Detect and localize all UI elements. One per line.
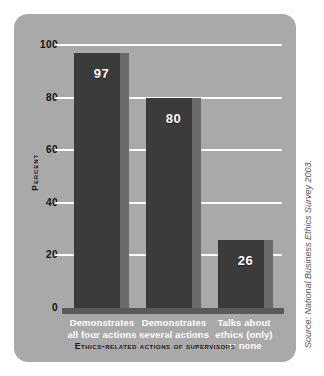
category-label-demonstrates-all-four-actions: Demonstrates all four actions — [62, 317, 142, 340]
y-axis-tick-mark-80 — [55, 97, 64, 99]
bar-value-label: 80 — [146, 111, 201, 126]
category-label-line: Demonstrates — [134, 317, 214, 329]
y-axis-tick-mark-20 — [55, 254, 64, 256]
bar-value-label: 26 — [218, 253, 273, 268]
bar-side-face — [264, 240, 273, 308]
category-label-line: Talks about — [206, 317, 282, 329]
x-axis-baseline — [62, 308, 284, 314]
y-axis-tick-label-100: 100 — [22, 40, 58, 50]
y-axis-tick-label-20: 20 — [22, 250, 58, 260]
bar-value-label: 97 — [74, 66, 129, 81]
category-label-line: all four actions — [62, 329, 142, 341]
y-axis-tick-mark-60 — [55, 149, 64, 151]
y-axis-title: Percent — [30, 154, 40, 191]
category-label-line: ethics (only) — [206, 329, 282, 341]
y-axis-tick-label-0: 0 — [22, 303, 58, 313]
source-credit: Source: National Business Ethics Survey … — [303, 160, 313, 348]
gridline-100 — [64, 44, 282, 46]
y-axis-tick-label-40: 40 — [22, 198, 58, 208]
x-axis-title: Ethics-related actions of supervisors — [14, 341, 296, 351]
y-axis-tick-mark-40 — [55, 202, 64, 204]
bar-side-face — [120, 53, 129, 308]
category-label-line: Demonstrates — [62, 317, 142, 329]
y-axis-tick-label-80: 80 — [22, 93, 58, 103]
bar-talks-about-ethics-only-or-none[interactable]: 26 — [218, 240, 273, 308]
bar-side-face — [192, 98, 201, 308]
category-label-line: several actions — [134, 329, 214, 341]
bar-demonstrates-all-four-actions[interactable]: 97 — [74, 53, 129, 308]
chart-panel: Percent 100 80 60 40 20 0 97 80 — [14, 14, 296, 362]
y-axis-tick-mark-100 — [55, 44, 64, 46]
category-label-demonstrates-several-actions: Demonstrates several actions — [134, 317, 214, 340]
bar-demonstrates-several-actions[interactable]: 80 — [146, 98, 201, 308]
y-axis-tick-label-60: 60 — [22, 145, 58, 155]
plot-area: 97 80 26 — [64, 45, 282, 308]
